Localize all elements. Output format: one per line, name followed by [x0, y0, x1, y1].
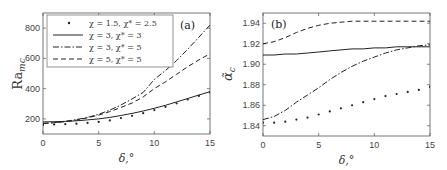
x-tick-label: 0	[40, 138, 45, 148]
y-tick-label: 400	[25, 84, 40, 94]
series-line	[263, 45, 430, 120]
data-point	[318, 113, 320, 115]
legend-entry: χ = 5, χ* = 5	[89, 55, 142, 64]
data-point	[131, 115, 133, 117]
data-point	[384, 95, 386, 97]
data-point	[142, 112, 144, 114]
data-point	[98, 121, 100, 123]
data-point	[262, 122, 264, 124]
y-tick-label: 1.88	[242, 80, 260, 90]
x-tick-label: 10	[149, 138, 159, 148]
legend-entry: χ = 3, χ* = 3	[89, 31, 142, 40]
series-line	[263, 21, 430, 44]
y-tick-label: 1.92	[242, 39, 260, 49]
y-tick-label: 1.94	[242, 18, 260, 28]
data-point	[340, 107, 342, 109]
x-tick-label: 5	[96, 138, 101, 148]
y-axis-label: Ramc	[10, 58, 27, 89]
data-point	[64, 123, 66, 125]
x-tick-label: 5	[316, 140, 321, 150]
y-tick-label: 1.84	[242, 121, 260, 131]
legend-entry: χ = 1.5, χ* = 2.5	[89, 19, 157, 28]
data-point	[284, 121, 286, 123]
chart-panel-a: 051015200400600800δ,°Ramc(a)χ = 1.5, χ* …	[10, 13, 215, 165]
figure: 051015200400600800δ,°Ramc(a)χ = 1.5, χ* …	[0, 0, 447, 170]
y-tick-label: 1.86	[242, 100, 260, 110]
data-point	[373, 98, 375, 100]
data-point	[396, 93, 398, 95]
data-point	[42, 124, 44, 126]
data-point	[109, 119, 111, 121]
legend-entry: χ = 3, χ* = 5	[89, 43, 142, 52]
data-point	[120, 117, 122, 119]
x-tick-label: 15	[205, 138, 215, 148]
x-tick-label: 10	[369, 140, 379, 150]
legend: χ = 1.5, χ* = 2.5χ = 3, χ* = 3χ = 3, χ* …	[47, 15, 173, 67]
chart-panel-b: 0510151.841.861.881.901.921.94δ,°α̃c(b)	[220, 13, 435, 167]
y-tick-label: 200	[25, 114, 40, 124]
data-point	[86, 122, 88, 124]
y-tick-label: 1.90	[242, 59, 260, 69]
panel-label: (a)	[180, 19, 195, 32]
data-point	[329, 110, 331, 112]
data-point	[351, 104, 353, 106]
x-axis-label: δ,°	[339, 154, 355, 167]
x-axis-label: δ,°	[119, 152, 135, 165]
x-tick-label: 15	[425, 140, 435, 150]
data-point	[362, 101, 364, 103]
data-point	[75, 123, 77, 125]
series-line	[43, 92, 210, 122]
data-point	[153, 109, 155, 111]
data-point	[429, 86, 431, 88]
y-tick-label: 800	[25, 23, 40, 33]
data-point	[295, 119, 297, 121]
plot-frame	[263, 13, 430, 136]
data-point	[53, 124, 55, 126]
y-axis-label: α̃c	[220, 67, 237, 81]
data-point	[273, 122, 275, 124]
data-point	[306, 116, 308, 118]
data-point	[418, 89, 420, 91]
x-tick-label: 0	[260, 140, 265, 150]
panel-label: (b)	[271, 18, 287, 31]
series-line	[263, 47, 430, 55]
data-point	[407, 91, 409, 93]
y-tick-label: 600	[25, 53, 40, 63]
